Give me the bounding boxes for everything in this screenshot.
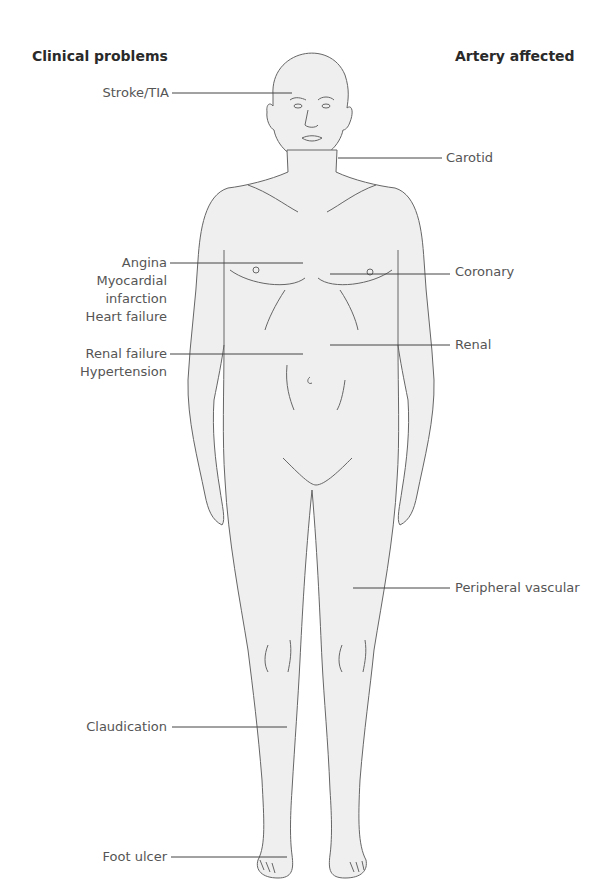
label-stroke-tia: Stroke/TIA [103,85,169,101]
label-coronary: Coronary [455,264,514,280]
label-renal: Renal [455,337,491,353]
label-claudication: Claudication [86,719,167,735]
label-peripheral-vascular: Peripheral vascular [455,580,580,596]
head-outline [267,53,352,160]
human-body-figure [0,0,613,894]
label-infarction: infarction [105,291,167,307]
label-foot-ulcer: Foot ulcer [103,849,168,865]
label-angina: Angina [122,255,167,271]
label-carotid: Carotid [446,150,493,166]
label-renal-failure: Renal failure [86,346,167,362]
label-myocardial: Myocardial [96,273,167,289]
label-hypertension: Hypertension [80,364,167,380]
torso-legs-outline [188,150,434,878]
label-heart-failure: Heart failure [86,309,167,325]
